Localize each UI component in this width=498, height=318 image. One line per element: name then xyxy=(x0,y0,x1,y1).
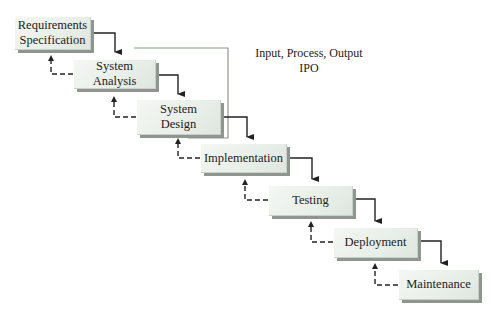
arrow-analysis-to-design xyxy=(157,75,178,94)
phase-label: Maintenance xyxy=(406,277,471,292)
ipo-annotation: Input, Process, Output IPO xyxy=(234,46,384,76)
phase-implementation: Implementation xyxy=(201,144,287,173)
phase-deployment: Deployment xyxy=(334,228,418,258)
phase-system-design: System Design xyxy=(137,100,221,135)
phase-label: Testing xyxy=(292,193,329,208)
feedback-maintenance-to-deployment xyxy=(375,268,398,285)
arrow-requirements-to-analysis xyxy=(92,33,115,52)
phase-requirements-specification: Requirements Specification xyxy=(15,17,91,50)
phase-label: System Analysis xyxy=(74,59,155,89)
arrow-design-to-implementation xyxy=(222,117,247,137)
arrow-deployment-to-maintenance xyxy=(419,241,441,263)
phase-maintenance: Maintenance xyxy=(399,270,479,300)
phase-label: Requirements Specification xyxy=(18,18,87,48)
phase-system-analysis: System Analysis xyxy=(74,60,156,89)
feedback-analysis-to-requirements xyxy=(51,60,73,74)
phase-label: Deployment xyxy=(345,235,407,250)
phase-testing: Testing xyxy=(269,186,353,216)
feedback-implementation-to-design xyxy=(178,143,200,158)
feedback-deployment-to-testing xyxy=(311,226,333,242)
ipo-annotation-line1: Input, Process, Output xyxy=(234,46,384,61)
phase-label: System Design xyxy=(160,102,197,132)
arrow-implementation-to-testing xyxy=(288,158,312,179)
feedback-testing-to-implementation xyxy=(245,184,268,200)
phase-label: Implementation xyxy=(204,151,283,166)
arrow-testing-to-deployment xyxy=(354,199,375,221)
feedback-design-to-analysis xyxy=(114,101,136,117)
ipo-annotation-line2: IPO xyxy=(234,61,384,76)
